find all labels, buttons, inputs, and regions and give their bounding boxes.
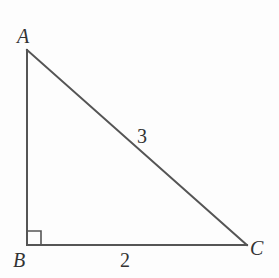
vertex-label-c: C	[250, 237, 264, 259]
vertex-label-b: B	[13, 249, 25, 271]
triangle-diagram: A B C 3 2	[0, 0, 279, 278]
side-label-ac: 3	[137, 125, 147, 147]
vertex-label-a: A	[15, 25, 30, 47]
side-label-bc: 2	[120, 249, 130, 271]
right-angle-marker	[27, 231, 41, 245]
side-ac-hypotenuse	[27, 50, 247, 245]
